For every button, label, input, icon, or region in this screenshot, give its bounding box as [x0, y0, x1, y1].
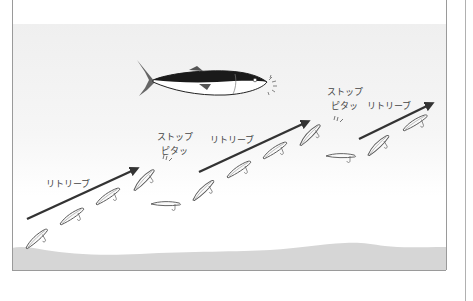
stop-label-2: ストップ: [327, 87, 363, 97]
retrieve-label-3: リトリーブ: [367, 100, 411, 111]
stop-label-1: ストップ: [157, 132, 193, 142]
lure-retrieve-diagram: リトリーブ ストップ ピタッ リトリーブ ストップ ピタッ リトリーブ: [0, 0, 473, 301]
bite-sound-label-2: ピタッ: [331, 101, 358, 111]
retrieve-label-2: リトリーブ: [210, 134, 254, 145]
water-area: [12, 24, 446, 270]
retrieve-label-1: リトリーブ: [46, 178, 90, 189]
bite-sound-label-1: ピタッ: [161, 146, 188, 156]
